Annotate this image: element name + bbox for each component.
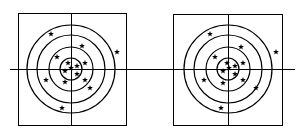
star-marker-icon xyxy=(240,77,246,82)
right-target xyxy=(150,14,295,126)
star-marker-icon xyxy=(74,71,80,76)
star-marker-icon xyxy=(220,80,226,85)
star-marker-icon xyxy=(218,105,224,110)
star-marker-icon xyxy=(212,54,218,59)
star-marker-icon xyxy=(273,49,279,54)
star-marker-icon xyxy=(79,43,85,48)
star-marker-icon xyxy=(82,77,88,82)
star-marker-icon xyxy=(82,60,88,65)
star-marker-icon xyxy=(232,63,238,68)
left-target xyxy=(10,13,150,126)
target-diagrams xyxy=(0,0,299,135)
star-marker-icon xyxy=(43,77,49,82)
star-marker-icon xyxy=(114,49,120,54)
star-marker-icon xyxy=(87,85,93,90)
star-marker-icon xyxy=(65,60,71,65)
star-marker-icon xyxy=(207,31,213,36)
star-marker-icon xyxy=(59,105,65,110)
star-marker-icon xyxy=(48,31,54,36)
star-marker-icon xyxy=(220,68,226,73)
star-marker-icon xyxy=(54,54,60,59)
star-marker-icon xyxy=(201,77,207,82)
star-marker-icon xyxy=(62,68,68,73)
star-marker-icon xyxy=(240,60,246,65)
star-marker-icon xyxy=(74,63,80,68)
star-marker-icon xyxy=(238,44,244,49)
